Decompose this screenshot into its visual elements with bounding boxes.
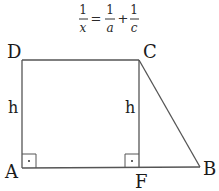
height-label-left: h	[8, 98, 18, 117]
vertex-label-D: D	[7, 41, 21, 62]
edge-CB	[139, 60, 200, 167]
right-angle-dot-F-icon	[131, 160, 133, 162]
edge-AB	[22, 167, 200, 168]
height-label-right: h	[125, 98, 135, 117]
vertex-label-A: A	[4, 161, 19, 182]
trapezoid-diagram: 1 x = 1 a + 1 c D C A B F h h	[0, 0, 219, 191]
vertex-label-B: B	[203, 158, 216, 179]
right-angle-markers	[22, 154, 139, 168]
equals-sign: =	[91, 11, 102, 26]
lhs-denominator: x	[80, 21, 87, 35]
term2-numerator: 1	[130, 3, 138, 17]
term1-denominator: a	[106, 21, 113, 35]
term2-denominator: c	[131, 21, 138, 35]
vertex-label-C: C	[143, 41, 157, 62]
right-angle-dot-A-icon	[28, 160, 30, 162]
formula: 1 x = 1 a + 1 c	[79, 3, 139, 35]
vertex-label-F: F	[135, 171, 148, 191]
trapezoid-edges	[22, 60, 200, 168]
plus-sign: +	[118, 11, 129, 26]
term1-numerator: 1	[106, 3, 114, 17]
lhs-numerator: 1	[79, 3, 87, 17]
